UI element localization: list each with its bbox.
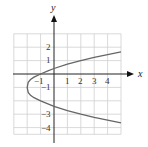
x-axis-label: x xyxy=(137,68,143,79)
x-axis-arrow-icon xyxy=(127,71,134,77)
x-tick-label: 1 xyxy=(65,76,70,86)
y-tick-label: 2 xyxy=(46,42,51,52)
y-tick-label: −3 xyxy=(41,109,51,119)
parabola-chart: x y −1 1 2 3 4 2 1 −1 −3 −4 xyxy=(0,0,148,147)
y-tick-label: −4 xyxy=(41,123,51,133)
axes xyxy=(13,22,128,143)
x-tick-label: 3 xyxy=(92,76,97,86)
y-axis-label: y xyxy=(50,2,56,13)
y-tick-label: 1 xyxy=(46,55,51,65)
x-tick-label: 4 xyxy=(105,76,110,86)
x-tick-label: 2 xyxy=(78,76,83,86)
y-tick-label: −1 xyxy=(41,82,51,92)
y-axis-arrow-icon xyxy=(51,15,57,22)
